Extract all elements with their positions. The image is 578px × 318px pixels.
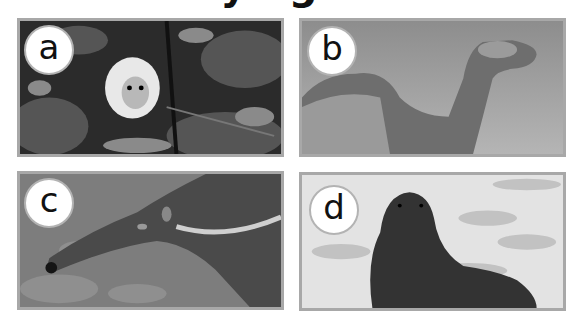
label-badge-c: c bbox=[24, 178, 74, 228]
label-badge-a: a bbox=[24, 25, 74, 75]
label-badge-d: d bbox=[309, 185, 359, 235]
page-heading: Identifying animals bbox=[0, 0, 578, 8]
panel-c[interactable]: c bbox=[17, 171, 284, 310]
label-badge-b: b bbox=[307, 26, 357, 76]
panel-a[interactable]: a bbox=[17, 18, 284, 157]
panel-d[interactable]: d bbox=[299, 172, 566, 311]
panel-b[interactable]: b bbox=[299, 18, 566, 157]
